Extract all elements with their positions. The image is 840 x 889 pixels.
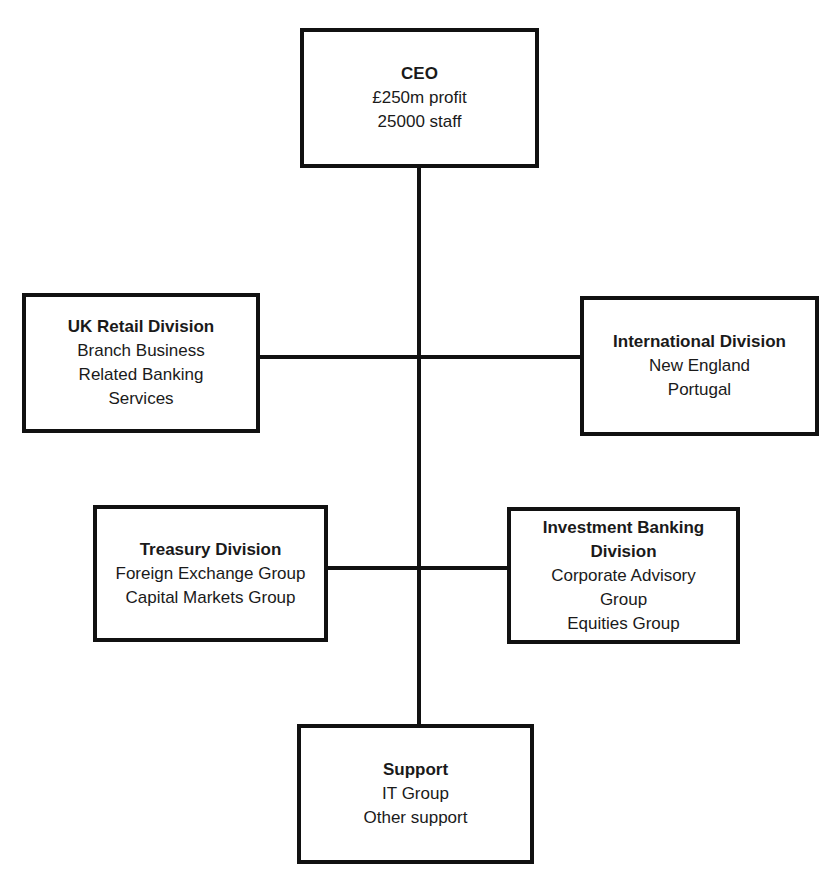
node-title: International Division — [613, 330, 786, 354]
node-text: Branch Business — [77, 339, 205, 363]
node-ceo: CEO £250m profit 25000 staff — [300, 28, 539, 168]
node-text: £250m profit — [372, 86, 467, 110]
node-text: Capital Markets Group — [125, 586, 295, 610]
node-text: Portugal — [668, 378, 731, 402]
node-text: Equities Group — [567, 612, 679, 636]
node-treasury-division: Treasury Division Foreign Exchange Group… — [93, 505, 328, 642]
node-text: 25000 staff — [378, 110, 462, 134]
node-text: Related Banking — [79, 363, 204, 387]
node-text: Corporate Advisory — [551, 564, 696, 588]
node-support: Support IT Group Other support — [297, 724, 534, 864]
node-text: Group — [600, 588, 647, 612]
node-title: Treasury Division — [140, 538, 282, 562]
node-title: CEO — [401, 62, 438, 86]
node-text: Services — [108, 387, 173, 411]
node-international-division: International Division New England Portu… — [580, 296, 819, 436]
node-uk-retail-division: UK Retail Division Branch Business Relat… — [22, 293, 260, 433]
node-title: Support — [383, 758, 448, 782]
node-title: Investment Banking — [543, 516, 705, 540]
node-text: IT Group — [382, 782, 449, 806]
connector-treasury-investment — [325, 566, 509, 570]
node-text: Foreign Exchange Group — [116, 562, 306, 586]
node-title: Division — [590, 540, 656, 564]
trunk-connector — [417, 165, 421, 726]
connector-uk-international — [257, 355, 582, 359]
node-text: Other support — [364, 806, 468, 830]
node-investment-banking-division: Investment Banking Division Corporate Ad… — [507, 507, 740, 644]
node-title: UK Retail Division — [68, 315, 214, 339]
node-text: New England — [649, 354, 750, 378]
